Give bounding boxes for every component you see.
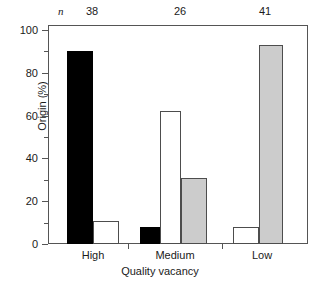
bar-medium-white [160, 111, 181, 244]
sample-size-row: n 38 26 41 [0, 4, 320, 20]
y-tick-label-60: 60 [26, 111, 38, 122]
x-tick-label-medium: Medium [155, 249, 194, 262]
bar-chart-figure: n 38 26 41 Origin (%) 100 80 60 40 20 0 … [0, 0, 320, 283]
x-tick-label-low: Low [252, 249, 272, 262]
x-tick-sep-2 [222, 244, 223, 249]
bar-low-gray [259, 45, 283, 244]
x-axis-title: Quality vacancy [0, 265, 320, 278]
sample-size-medium: 26 [174, 4, 186, 18]
bar-high-black [67, 51, 93, 244]
bar-low-white [233, 227, 259, 244]
bar-medium-black [140, 227, 160, 244]
y-tick-label-100: 100 [20, 25, 38, 36]
y-tick-label-0: 0 [32, 239, 38, 250]
x-tick-label-high: High [82, 249, 105, 262]
sample-size-high: 38 [86, 4, 98, 18]
y-tick-0 [42, 244, 48, 245]
bar-high-white [93, 221, 119, 244]
y-tick-label-80: 80 [26, 68, 38, 79]
y-tick-label-20: 20 [26, 196, 38, 207]
y-tick-label-40: 40 [26, 153, 38, 164]
sample-size-symbol: n [58, 4, 64, 18]
bar-medium-gray [181, 178, 207, 244]
sample-size-low: 41 [259, 4, 271, 18]
x-tick-sep-1 [128, 244, 129, 249]
